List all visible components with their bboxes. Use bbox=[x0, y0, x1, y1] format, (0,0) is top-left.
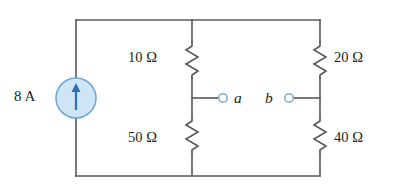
resistor-symbol-bottom-middle bbox=[186, 118, 198, 154]
resistor-label-bottom-middle: 50 Ω bbox=[128, 130, 157, 145]
resistor-label-top-middle: 10 Ω bbox=[128, 50, 157, 65]
terminal-label-b: b bbox=[265, 90, 273, 106]
current-source-symbol bbox=[56, 78, 96, 118]
resistor-symbol-top-right bbox=[314, 42, 326, 78]
terminal-b-node bbox=[285, 94, 293, 102]
resistor-symbol-bottom-right bbox=[314, 118, 326, 154]
resistor-label-bottom-right: 40 Ω bbox=[334, 130, 363, 145]
current-source-label: 8 A bbox=[14, 89, 35, 104]
circuit-schematic-canvas bbox=[0, 0, 398, 196]
circuit-diagram: 8 A 10 Ω 50 Ω 20 Ω 40 Ω a b bbox=[0, 0, 398, 196]
resistor-label-top-right: 20 Ω bbox=[334, 50, 363, 65]
resistor-symbol-top-middle bbox=[186, 42, 198, 78]
terminal-label-a: a bbox=[234, 90, 242, 106]
terminal-a-node bbox=[219, 94, 227, 102]
